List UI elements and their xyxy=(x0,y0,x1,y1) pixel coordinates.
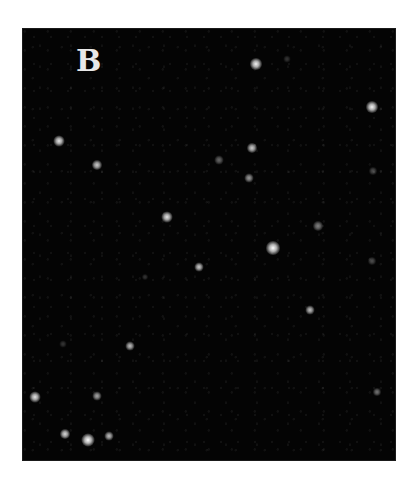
fluorescent-spot xyxy=(245,174,254,183)
fluorescent-spot xyxy=(247,143,257,153)
fluorescent-spot xyxy=(369,167,377,175)
fluorescent-spot xyxy=(105,432,114,441)
fluorescent-spot xyxy=(195,263,204,272)
fluorescent-spot xyxy=(93,392,102,401)
fluorescent-spot xyxy=(82,434,95,447)
fluorescent-spot xyxy=(284,56,291,63)
fluorescent-spot xyxy=(313,221,323,231)
fluorescent-spot xyxy=(54,136,65,147)
fluorescent-spot xyxy=(162,212,173,223)
fluorescent-spot xyxy=(30,392,41,403)
fluorescent-spot xyxy=(306,306,315,315)
fluorescent-spot xyxy=(266,241,280,255)
panel-label: B xyxy=(76,46,101,76)
background-noise xyxy=(22,28,396,461)
fluorescent-spot xyxy=(368,257,376,265)
fluorescent-spot xyxy=(60,341,67,348)
fluorescent-spot xyxy=(60,429,70,439)
microscopy-image-panel: B xyxy=(22,28,396,461)
fluorescent-spot xyxy=(92,160,102,170)
fluorescent-spot xyxy=(126,342,135,351)
fluorescent-spot xyxy=(366,101,378,113)
fluorescent-spot xyxy=(250,58,262,70)
fluorescent-spot xyxy=(215,156,224,165)
fluorescent-spot xyxy=(373,388,381,396)
fluorescent-spot xyxy=(142,274,148,280)
